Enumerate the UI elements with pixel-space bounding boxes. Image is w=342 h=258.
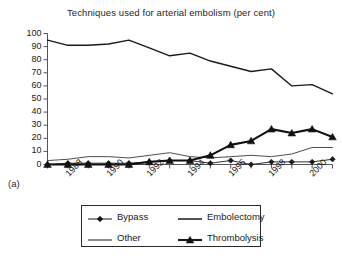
y-axis-tick-label: 10 [18, 146, 42, 155]
legend-marker-diamond-icon [87, 211, 113, 223]
y-axis-tick-label: 60 [18, 81, 42, 90]
legend-marker-triangle-icon [177, 232, 203, 244]
legend-item-bypass: Bypass [82, 206, 172, 227]
panel-label: (a) [8, 178, 20, 189]
legend-marker-line-thin-icon [87, 232, 113, 244]
y-axis-tick-label: 30 [18, 120, 42, 129]
y-axis-tick-label: 70 [18, 68, 42, 77]
y-axis-tick-label: 40 [18, 107, 42, 116]
y-axis-tick-label: 50 [18, 94, 42, 103]
legend-label: Embolectomy [207, 211, 265, 222]
y-axis-tick-label: 100 [18, 29, 42, 38]
y-axis-tick-label: 0 [18, 160, 42, 169]
legend-marker-line-medium-icon [177, 211, 203, 223]
series-embolectomy [48, 40, 333, 94]
legend-label: Bypass [117, 211, 148, 222]
data-series [44, 40, 337, 167]
y-axis-tick-label: 90 [18, 42, 42, 51]
chart-figure: Techniques used for arterial embolism (p… [0, 0, 342, 258]
legend-item-embolectomy: Embolectomy [172, 206, 262, 227]
legend: BypassEmbolectomyOtherThrombolysis [81, 205, 261, 247]
plot-area: 0102030405060708090100 19881990199219941… [0, 0, 342, 200]
y-axis-tick-label: 20 [18, 133, 42, 142]
legend-label: Other [117, 232, 141, 243]
legend-item-thrombolysis: Thrombolysis [172, 227, 262, 248]
legend-label: Thrombolysis [207, 232, 264, 243]
plot-svg [0, 0, 342, 200]
y-axis-tick-label: 80 [18, 55, 42, 64]
legend-item-other: Other [82, 227, 172, 248]
